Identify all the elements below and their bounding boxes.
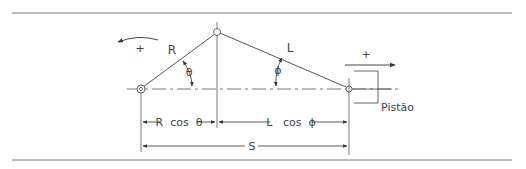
- dim-rod-label: L cos ϕ: [266, 116, 315, 129]
- translation-sign: +: [361, 48, 370, 61]
- crank-pin-joint: [214, 29, 221, 36]
- dim-stroke-label: S: [249, 140, 256, 153]
- slider-crank-diagram: θ ϕ R L + + Pistão R cos θ L cos ϕ S: [0, 0, 526, 169]
- piston-box: [354, 71, 378, 103]
- rotation-sign: +: [135, 42, 144, 55]
- crank-label: R: [168, 43, 176, 57]
- crank-pivot-inner: [139, 87, 142, 90]
- dim-crank-label: R cos θ: [156, 116, 203, 129]
- crank-link: [143, 34, 215, 87]
- phi-label: ϕ: [274, 64, 281, 77]
- theta-label: θ: [186, 66, 193, 79]
- connecting-rod: [220, 33, 346, 87]
- piston-label: Pistão: [381, 101, 414, 114]
- rod-label: L: [287, 41, 294, 55]
